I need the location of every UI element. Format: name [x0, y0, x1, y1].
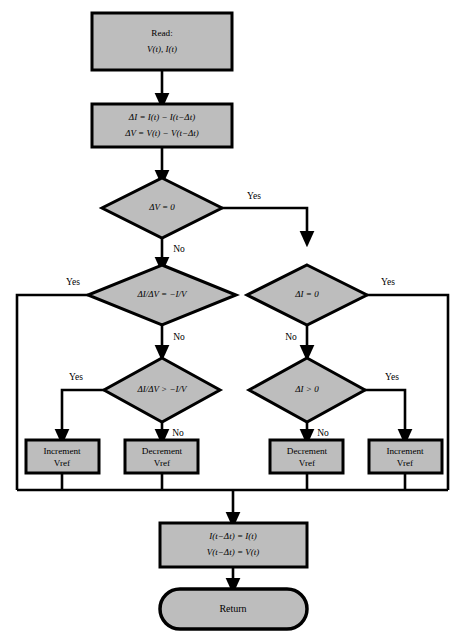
node-decision-cond-eq-label: ΔI/ΔV = −I/V — [136, 289, 188, 299]
branch-label-dv-no: No — [173, 244, 185, 254]
node-decision-cond-eq: ΔI/ΔV = −I/V — [88, 265, 236, 325]
branch-label-cond-eq-no: No — [173, 332, 185, 342]
node-action-increment-left-line1: Increment — [43, 446, 81, 456]
node-decision-cond-gt: ΔI/ΔV > −I/V — [104, 358, 220, 422]
node-action-increment-left-line2: Vref — [54, 458, 71, 468]
connector-cond-gt-yes-to-increment-left — [62, 390, 104, 437]
node-deltas-line2: ΔV = V(t) − V(t−Δt) — [124, 128, 199, 138]
node-decision-di-gt: ΔI > 0 — [249, 358, 365, 422]
node-action-decrement-left-line2: Vref — [154, 458, 171, 468]
branch-label-cond-eq-yes: Yes — [66, 277, 80, 287]
node-action-increment-right: Increment Vref — [369, 440, 442, 473]
flowchart-page: Read: V(t), I(t) ΔI = I(t) − I(t−Δt) ΔV … — [0, 0, 464, 636]
node-read-line2: V(t), I(t) — [147, 44, 177, 54]
branch-label-dv-yes: Yes — [247, 191, 261, 201]
node-return: Return — [160, 589, 307, 629]
node-decision-di-gt-label: ΔI > 0 — [294, 384, 319, 394]
node-update: I(t−Δt) = I(t) V(t−Δt) = V(t) — [160, 523, 307, 567]
branch-label-di-gt-no: No — [317, 428, 329, 438]
node-return-label: Return — [219, 603, 246, 614]
branch-label-di-gt-yes: Yes — [385, 372, 399, 382]
node-update-line1: I(t−Δt) = I(t) — [208, 531, 256, 541]
branch-label-di-eq-yes: Yes — [381, 277, 395, 287]
node-action-decrement-right: Decrement Vref — [270, 440, 343, 473]
node-action-increment-right-line1: Increment — [386, 446, 424, 456]
node-action-increment-left: Increment Vref — [26, 440, 99, 473]
node-decision-dv: ΔV = 0 — [102, 178, 222, 238]
flowchart-canvas: Read: V(t), I(t) ΔI = I(t) − I(t−Δt) ΔV … — [0, 0, 464, 636]
node-deltas-line1: ΔI = I(t) − I(t−Δt) — [128, 112, 195, 122]
node-action-decrement-right-line2: Vref — [299, 458, 316, 468]
node-action-increment-right-line2: Vref — [397, 458, 414, 468]
node-read-line1: Read: — [151, 28, 172, 38]
node-deltas: ΔI = I(t) − I(t−Δt) ΔV = V(t) − V(t−Δt) — [92, 104, 232, 147]
node-update-line2: V(t−Δt) = V(t) — [207, 547, 259, 557]
node-action-decrement-left: Decrement Vref — [125, 440, 198, 473]
node-decision-di-eq-label: ΔI = 0 — [294, 289, 319, 299]
branch-label-cond-gt-no: No — [172, 428, 184, 438]
connector-di-gt-yes-to-increment-right — [365, 390, 405, 437]
node-action-decrement-right-line1: Decrement — [287, 446, 328, 456]
branch-label-di-eq-no: No — [285, 332, 297, 342]
node-decision-di-eq: ΔI = 0 — [247, 265, 367, 325]
connector-dv-yes-to-di-eq — [222, 208, 307, 239]
node-action-decrement-left-line1: Decrement — [142, 446, 183, 456]
node-decision-dv-label: ΔV = 0 — [148, 202, 175, 212]
node-decision-cond-gt-label: ΔI/ΔV > −I/V — [136, 384, 188, 394]
branch-label-cond-gt-yes: Yes — [69, 372, 83, 382]
node-read: Read: V(t), I(t) — [92, 13, 232, 70]
